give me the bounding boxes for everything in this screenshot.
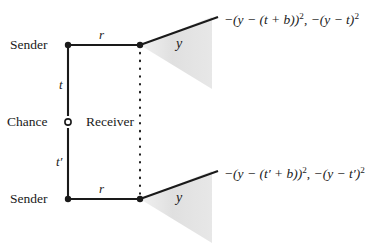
payoff-bottom-receiver: −(y − t′) <box>314 166 361 181</box>
node-sender-top <box>65 42 71 48</box>
node-chance <box>65 119 71 125</box>
payoff-bottom-sender: −(y − (t′ + b)) <box>224 166 302 181</box>
payoff-top-receiver-exponent: 2 <box>354 11 359 21</box>
action-cone-bottom <box>140 171 212 243</box>
payoff-bottom: −(y − (t′ + b))2, −(y − t′)2 <box>224 167 365 181</box>
payoff-top-sender: −(y − (t + b)) <box>224 12 299 27</box>
label-action-y-bottom: y <box>176 191 182 205</box>
label-sender-top: Sender <box>10 38 48 52</box>
node-sender-bottom <box>65 196 71 202</box>
label-message-r-bottom: r <box>99 182 104 195</box>
node-receiver-bottom <box>137 196 143 202</box>
payoff-bottom-separator: , <box>307 166 314 181</box>
action-cone-top <box>140 17 212 89</box>
node-receiver-top <box>137 42 143 48</box>
label-message-r-top: r <box>99 28 104 41</box>
game-tree-canvas <box>0 0 392 247</box>
label-type-t: t <box>59 78 63 91</box>
label-type-t-prime: t′ <box>56 155 62 168</box>
label-action-y-top: y <box>176 37 182 51</box>
label-chance: Chance <box>7 115 47 129</box>
payoff-top: −(y − (t + b))2, −(y − t)2 <box>224 13 359 27</box>
label-sender-bottom: Sender <box>10 192 48 206</box>
signaling-game-figure: Sender Sender Chance Receiver t t′ r r y… <box>0 0 392 247</box>
payoff-top-separator: , <box>304 12 311 27</box>
payoff-top-receiver: −(y − t) <box>311 12 355 27</box>
payoff-bottom-receiver-exponent: 2 <box>360 165 365 175</box>
label-receiver: Receiver <box>86 115 134 129</box>
